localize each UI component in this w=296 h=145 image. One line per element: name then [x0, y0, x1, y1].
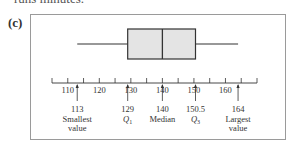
- iqr-box: [128, 29, 196, 59]
- axis-tick-label: 160: [219, 85, 232, 95]
- axis-tick-label: 130: [124, 85, 137, 95]
- annotation-value: 113: [71, 104, 83, 114]
- arrow-up-icon: [236, 84, 239, 88]
- axis-tick-label: 120: [93, 85, 106, 95]
- annotation-label-line2: value: [68, 123, 87, 133]
- annotation-value: 150.5: [186, 104, 205, 114]
- arrow-up-icon: [76, 84, 79, 88]
- axis-tick-label: 110: [62, 85, 74, 95]
- axis-tick-label: 150: [188, 85, 201, 95]
- annotation-label: Q3: [191, 114, 200, 125]
- annotation-label: Q1: [123, 114, 132, 125]
- annotation-label: Median: [149, 114, 176, 124]
- annotation-value: 140: [156, 104, 169, 114]
- box-plot: 110120130140150160113Smallestvalue129Q11…: [0, 0, 296, 145]
- annotation-value: 129: [121, 104, 134, 114]
- annotation-value: 164: [232, 104, 246, 114]
- annotation-label-line2: value: [229, 123, 248, 133]
